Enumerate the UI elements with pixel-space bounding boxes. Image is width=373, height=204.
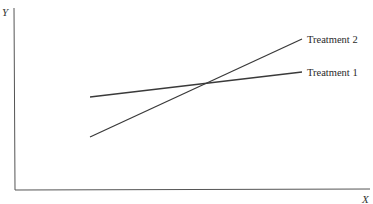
- y-axis-label: Y: [2, 6, 10, 18]
- x-axis-label: X: [361, 193, 370, 204]
- x-axis: [15, 189, 370, 190]
- interaction-line-chart: Y X Treatment 2 Treatment 1: [0, 0, 373, 204]
- y-axis: [14, 8, 15, 190]
- treatment-1-label: Treatment 1: [307, 67, 358, 78]
- treatment-1-line: [90, 72, 302, 97]
- treatment-2-label: Treatment 2: [307, 34, 358, 45]
- treatment-2-line: [90, 39, 302, 137]
